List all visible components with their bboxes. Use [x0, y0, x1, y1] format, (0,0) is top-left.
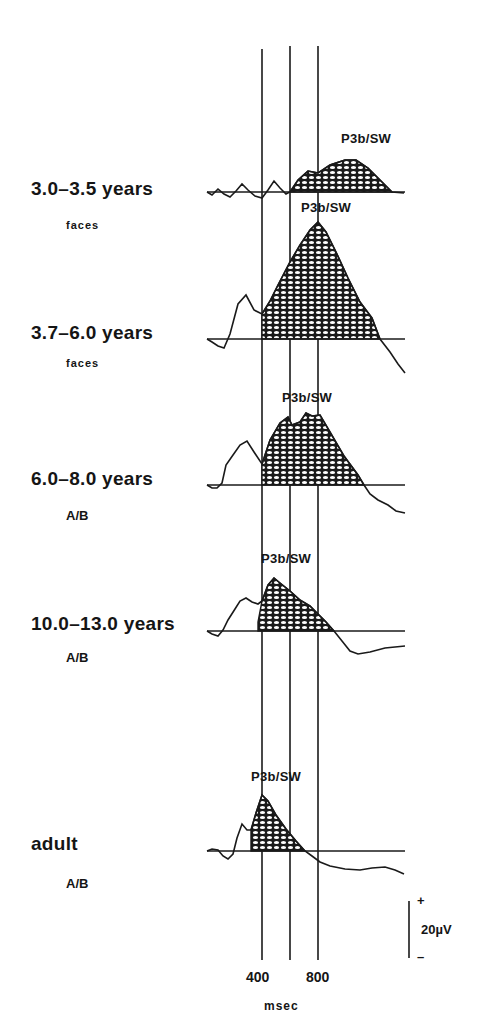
row-label-condition-5: A/B	[66, 876, 88, 891]
erp-trace-5	[207, 795, 404, 874]
peak-label-3: P3b/SW	[282, 390, 332, 405]
row-label-age-2: 3.7–6.0 years	[31, 322, 153, 344]
peak-label-5: P3b/SW	[251, 769, 301, 784]
scale-bar-minus: –	[417, 949, 424, 964]
x-axis-unit: msec	[264, 999, 299, 1013]
trace-row-2	[207, 222, 405, 373]
row-label-age-5: adult	[31, 833, 78, 855]
row-label-condition-2: faces	[66, 357, 99, 369]
x-tick-400: 400	[246, 969, 269, 985]
row-label-age-1: 3.0–3.5 years	[31, 178, 153, 200]
shaded-p3b-sw-4	[258, 578, 334, 631]
scale-bar-value: 20µV	[421, 922, 452, 937]
trace-row-3	[207, 413, 405, 513]
peak-label-1: P3b/SW	[341, 131, 391, 146]
trace-row-4	[207, 578, 405, 654]
row-label-condition-4: A/B	[66, 650, 88, 665]
row-label-condition-3: A/B	[66, 508, 88, 523]
peak-label-4: P3b/SW	[261, 551, 311, 566]
shaded-p3b-sw-3	[262, 413, 364, 485]
trace-row-5	[207, 795, 405, 874]
row-label-age-4: 10.0–13.0 years	[31, 613, 175, 635]
trace-row-1	[207, 160, 405, 198]
row-label-age-3: 6.0–8.0 years	[31, 468, 153, 490]
x-tick-800: 800	[306, 969, 329, 985]
row-label-condition-1: faces	[66, 219, 99, 231]
scale-bar-plus: +	[417, 893, 425, 908]
peak-label-2: P3b/SW	[301, 200, 351, 215]
